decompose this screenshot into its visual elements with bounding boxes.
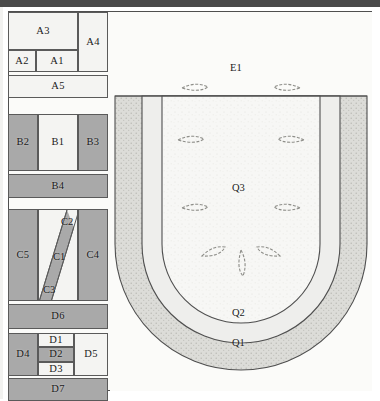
block-b1: B1 — [38, 114, 78, 171]
label-e1: E1 — [230, 62, 242, 73]
block-d1-label: D1 — [49, 335, 62, 346]
block-d2-label: D2 — [49, 349, 62, 360]
block-a2-label: A2 — [15, 56, 28, 67]
block-c-diagonal-cell: C2 C1 C3 — [38, 209, 78, 301]
block-d6-label: D6 — [51, 311, 64, 322]
u-shaped-basin-panel: E1 Q3 Q2 Q1 — [110, 12, 372, 391]
block-d7: D7 — [8, 378, 108, 401]
block-c4-label: C4 — [87, 250, 100, 261]
block-d4-label: D4 — [16, 349, 29, 360]
label-q3: Q3 — [232, 182, 245, 193]
block-c5-label: C5 — [17, 250, 30, 261]
block-d7-label: D7 — [51, 384, 64, 395]
block-d6: D6 — [8, 304, 108, 329]
block-b1-label: B1 — [52, 137, 65, 148]
block-d5-label: D5 — [84, 349, 97, 360]
block-d3: D3 — [38, 362, 74, 376]
block-c3-label: C3 — [43, 284, 55, 295]
block-c2-label: C2 — [61, 216, 73, 227]
block-b4-label: B4 — [52, 181, 65, 192]
lettered-block-column: A3 A4 A2 A1 A5 B2 B1 B3 B4 C5 C2 C1 C3 — [8, 12, 108, 391]
block-b3-label: B3 — [87, 137, 100, 148]
block-d3-label: D3 — [49, 364, 62, 375]
block-a3-label: A3 — [36, 26, 49, 37]
block-a5-label: A5 — [51, 81, 64, 92]
block-a1: A1 — [36, 50, 78, 72]
block-c1-label: C1 — [53, 251, 65, 262]
block-b3: B3 — [78, 114, 108, 171]
label-q2: Q2 — [232, 307, 245, 318]
block-a5: A5 — [8, 75, 108, 98]
block-d1: D1 — [38, 333, 74, 347]
block-b2: B2 — [8, 114, 38, 171]
block-d4: D4 — [8, 333, 38, 376]
block-a4: A4 — [78, 12, 108, 72]
block-b4: B4 — [8, 174, 108, 198]
block-b2-label: B2 — [17, 137, 30, 148]
block-a3: A3 — [8, 12, 78, 50]
block-a4-label: A4 — [86, 37, 99, 48]
label-q1: Q1 — [232, 337, 245, 348]
block-a1-label: A1 — [50, 56, 63, 67]
block-c5: C5 — [8, 209, 38, 301]
block-c4: C4 — [78, 209, 108, 301]
block-a2: A2 — [8, 50, 36, 72]
left-margin — [0, 7, 3, 399]
top-bar — [0, 0, 380, 7]
block-d2: D2 — [38, 347, 74, 362]
block-d5: D5 — [74, 333, 108, 376]
layer-q3 — [162, 96, 320, 323]
